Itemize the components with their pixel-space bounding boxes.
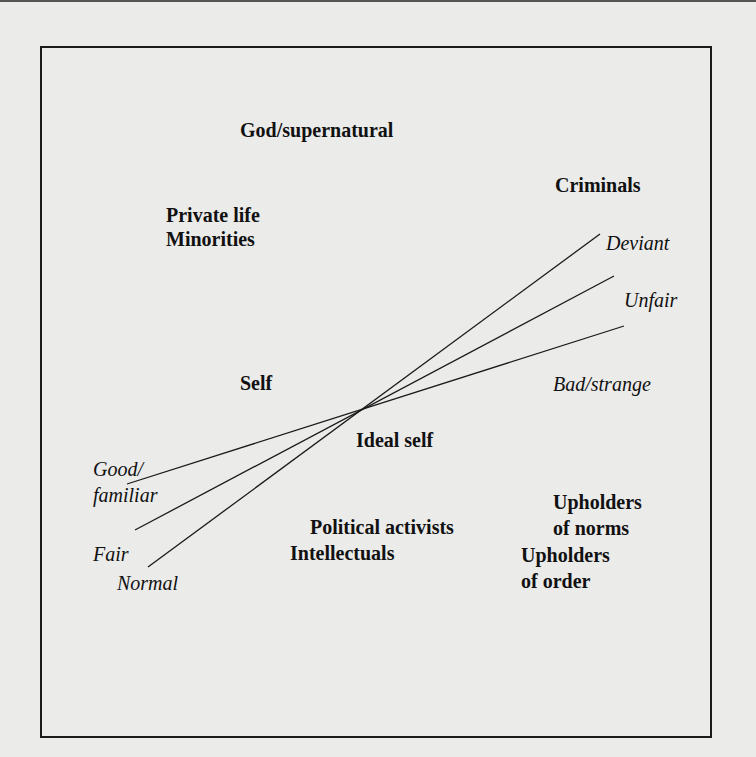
label-of-order: of order (521, 569, 610, 595)
label-upholders-of-order: Upholders of order (521, 543, 610, 594)
bad-good-axis (127, 326, 624, 484)
label-private-life: Private life (166, 203, 260, 227)
label-activists-intellectuals: Political activists Intellectuals (290, 514, 454, 566)
pole-normal: Normal (117, 571, 178, 595)
label-ideal-self: Ideal self (356, 428, 433, 452)
unfair-fair-axis (135, 276, 614, 530)
label-upholders-of-norms: Upholders of norms (553, 490, 642, 541)
pole-deviant: Deviant (606, 231, 669, 255)
pole-bad-strange: Bad/strange (553, 372, 651, 396)
label-intellectuals: Intellectuals (290, 540, 454, 566)
pole-unfair: Unfair (624, 288, 677, 312)
label-private-life-minorities: Private life Minorities (166, 203, 260, 252)
label-political-activists: Political activists (290, 514, 454, 540)
label-upholders-2: Upholders (521, 543, 610, 569)
label-god-supernatural: God/supernatural (240, 118, 393, 142)
label-minorities: Minorities (166, 227, 260, 251)
pole-good-familiar: Good/ familiar (93, 456, 157, 508)
pole-familiar: familiar (93, 482, 157, 508)
label-of-norms: of norms (553, 516, 642, 542)
label-upholders-1: Upholders (553, 490, 642, 516)
label-criminals: Criminals (555, 173, 641, 197)
pole-fair: Fair (93, 542, 129, 566)
label-self: Self (240, 371, 272, 395)
pole-good: Good/ (93, 456, 157, 482)
